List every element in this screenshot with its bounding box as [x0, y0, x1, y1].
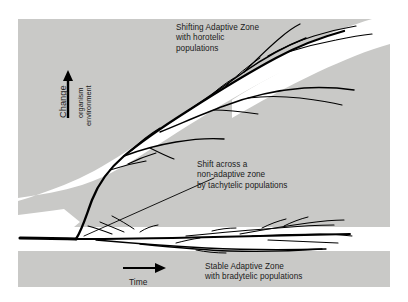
annotation-shifting-adaptive-zone: Shifting Adaptive Zonewith horotelicpopu…	[176, 23, 259, 54]
annotation-line-2: non-adaptive zone	[197, 170, 265, 179]
annotation-line-1: Shift across a	[197, 160, 247, 169]
annotation-line-3: by tachytelic populations	[197, 181, 287, 190]
x-axis-label-time: Time	[129, 277, 148, 287]
annotation-stable-adaptive-zone: Stable Adaptive Zonewith bradytelic popu…	[205, 262, 302, 283]
y-axis-label-change: Change	[58, 85, 68, 118]
annotation-line-3: populations	[176, 44, 218, 53]
annotation-shift-across-nonadaptive-zone: Shift across anon-adaptive zoneby tachyt…	[197, 160, 287, 191]
root-trunk-line	[20, 238, 76, 239]
annotation-line-2: with bradytelic populations	[205, 272, 302, 281]
annotation-line-2: with horotelic	[176, 33, 224, 42]
annotation-line-1: Stable Adaptive Zone	[205, 262, 284, 271]
annotation-line-1: Shifting Adaptive Zone	[176, 23, 259, 32]
y-axis-sublabel-environment: environment	[84, 85, 93, 126]
figure-container: Shifting Adaptive Zonewith horotelicpopu…	[0, 0, 408, 302]
